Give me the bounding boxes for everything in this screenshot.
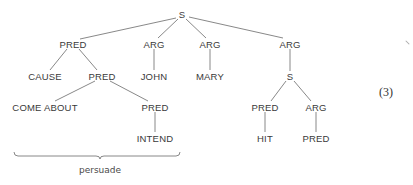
node-hit: HIT	[257, 133, 273, 144]
node-pred-leaf: PRED	[302, 133, 329, 144]
node-arg-mary: ARG	[199, 39, 220, 50]
node-arg-inner: ARG	[305, 102, 326, 113]
node-s-inner: S	[287, 71, 294, 82]
node-mary: MARY	[196, 71, 224, 82]
node-pred-3: PRED	[141, 102, 168, 113]
node-arg-right: ARG	[279, 39, 300, 50]
node-s-root: S	[179, 9, 186, 20]
tree-edges	[0, 0, 413, 185]
node-pred-hit: PRED	[251, 102, 278, 113]
node-pred-2: PRED	[88, 71, 115, 82]
node-intend: INTEND	[137, 133, 174, 144]
brace-label-persuade: persuade	[79, 165, 121, 175]
node-come-about: COME ABOUT	[12, 102, 77, 113]
equation-number: (3)	[379, 85, 393, 100]
persuade-brace	[14, 152, 180, 159]
node-john: JOHN	[141, 71, 168, 82]
node-cause: CAUSE	[28, 71, 62, 82]
node-arg-john: ARG	[143, 39, 164, 50]
node-pred: PRED	[59, 39, 86, 50]
